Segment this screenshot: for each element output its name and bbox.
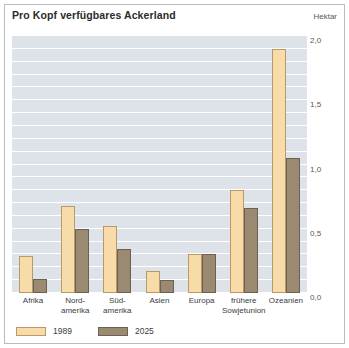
bar-1989-Asien <box>146 271 160 293</box>
bar-2025-frühereSowjetunion <box>244 208 258 293</box>
bar-2025-Ozeanien <box>286 158 300 293</box>
y-axis-ticks: 0,00,51,01,52,0 <box>310 36 344 293</box>
bar-1989-Nordamerika <box>61 206 75 293</box>
bar-2025-Asien <box>160 280 174 293</box>
bars-layer <box>12 36 307 293</box>
bar-2025-Südamerika <box>117 249 131 293</box>
plot-area <box>12 36 307 293</box>
x-tick-label: Nord- amerika <box>61 296 89 315</box>
chart-legend: 19892025 <box>16 326 154 336</box>
bar-2025-Europa <box>202 254 216 293</box>
bar-1989-frühereSowjetunion <box>230 190 244 293</box>
x-tick-label: Afrika <box>23 296 43 306</box>
x-tick-label: frühere Sowjetunion <box>222 296 266 315</box>
chart-figure: Pro Kopf verfügbares Ackerland Hektar 0,… <box>0 0 349 348</box>
legend-label: 2025 <box>135 326 154 336</box>
legend-swatch-icon <box>16 327 46 336</box>
x-tick-label: Süd- amerika <box>103 296 131 315</box>
legend-item-2025[interactable]: 2025 <box>98 326 154 336</box>
y-axis-unit-label: Hektar <box>313 12 337 21</box>
x-tick-label: Asien <box>149 296 169 306</box>
bar-1989-Südamerika <box>103 226 117 293</box>
x-tick-label: Europa <box>189 296 215 306</box>
legend-label: 1989 <box>53 326 72 336</box>
legend-swatch-icon <box>98 327 128 336</box>
legend-item-1989[interactable]: 1989 <box>16 326 72 336</box>
x-tick-label: Ozeanien <box>269 296 303 306</box>
bar-1989-Europa <box>188 254 202 293</box>
chart-title: Pro Kopf verfügbares Ackerland <box>12 9 176 21</box>
bar-2025-Afrika <box>33 279 47 293</box>
bar-2025-Nordamerika <box>75 229 89 293</box>
bar-1989-Ozeanien <box>272 49 286 293</box>
bar-1989-Afrika <box>19 256 33 293</box>
